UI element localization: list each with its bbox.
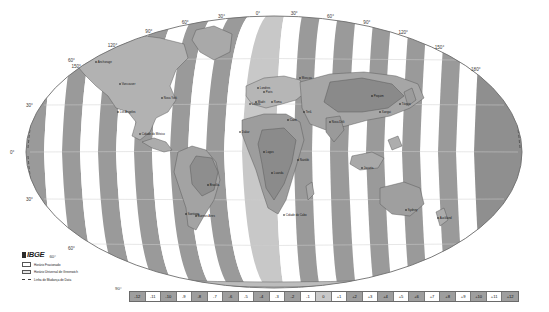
city-dot — [437, 217, 439, 219]
city-label: Los Angeles — [120, 110, 136, 114]
city-dot — [379, 111, 381, 113]
timezone-cell-minus5[interactable]: -5 — [239, 292, 255, 301]
city-dot — [161, 97, 163, 99]
logo-bars-icon — [22, 252, 26, 257]
timezone-cell-plus1[interactable]: +1 — [332, 292, 348, 301]
city-dot — [399, 103, 401, 105]
city-label: Sydney — [408, 208, 418, 212]
ibge-logo: IBGE — [22, 251, 44, 259]
timezone-scale-bar: -12-11-10-9-8-7-6-5-4-3-2-10+1+2+3+4+5+6… — [129, 291, 519, 302]
city-dot — [361, 167, 363, 169]
city-dot — [255, 101, 257, 103]
legend-latitude-marker: 60° — [49, 254, 56, 260]
city-label: Moscou — [302, 76, 313, 80]
city-label: Cidade do México — [142, 132, 166, 136]
legend-label-fractional: Horário Fracionado — [34, 263, 60, 267]
longitude-label: 90° — [145, 29, 152, 34]
longitude-label: 90° — [363, 20, 370, 25]
city-label: Tóquio — [402, 102, 411, 106]
longitude-label: 150° — [435, 45, 445, 50]
timezone-cell-plus10[interactable]: +10 — [471, 292, 487, 301]
legend-item-fractional: Horário Fracionado — [22, 262, 140, 268]
timezone-cell-plus12[interactable]: +12 — [502, 292, 518, 301]
legend-dashed-line-icon — [22, 277, 31, 282]
city-dot — [249, 103, 251, 105]
city-label: Jacarta — [364, 166, 374, 170]
world-timezone-map: AnchorageVancouverLos AngelesCidade do M… — [0, 0, 549, 312]
timezone-cell-plus9[interactable]: +9 — [456, 292, 472, 301]
longitude-label: 180° — [471, 67, 481, 72]
timezone-cell-minus9[interactable]: -9 — [177, 292, 193, 301]
city-label: Luanda — [274, 171, 284, 175]
timezone-cell-minus7[interactable]: -7 — [208, 292, 224, 301]
city-dot — [287, 119, 289, 121]
timezone-cell-minus3[interactable]: -3 — [270, 292, 286, 301]
timezone-cell-plus4[interactable]: +4 — [378, 292, 394, 301]
timezone-cell-plus11[interactable]: +11 — [487, 292, 503, 301]
city-dot — [207, 184, 209, 186]
city-dot — [303, 111, 305, 113]
city-label: Brasília — [210, 183, 220, 187]
city-dot — [271, 172, 273, 174]
latitude-label: 60° — [68, 58, 75, 63]
timezone-cell-minus2[interactable]: -2 — [285, 292, 301, 301]
timezone-cell-minus12[interactable]: -12 — [130, 292, 146, 301]
longitude-label: 30° — [218, 14, 225, 19]
city-dot — [185, 213, 187, 215]
city-dot — [95, 61, 97, 63]
city-dot — [297, 159, 299, 161]
city-dot — [299, 77, 301, 79]
city-label: Anchorage — [98, 60, 112, 64]
city-label: Nova Déli — [332, 120, 345, 124]
longitude-label: 0° — [256, 11, 261, 16]
city-label: Nairóbi — [300, 158, 310, 162]
timezone-cell-plus2[interactable]: +2 — [347, 292, 363, 301]
city-dot — [263, 151, 265, 153]
longitude-label: 30° — [291, 11, 298, 16]
city-label: Vancouver — [122, 82, 136, 86]
city-dot — [117, 111, 119, 113]
legend-label-greenwich: Horário Universal de Greenwich — [34, 270, 78, 274]
city-dot — [283, 214, 285, 216]
city-label: Cidade do Cabo — [286, 213, 307, 217]
city-label: Lagos — [266, 150, 274, 154]
city-label: Buenos Aires — [198, 214, 216, 218]
city-label: Dakar — [242, 130, 250, 134]
city-label: Xangai — [382, 110, 391, 114]
longitude-label: 60° — [327, 14, 334, 19]
longitude-label: 150° — [71, 64, 81, 69]
legend-label-dateline: Linha de Mudança de Data — [34, 278, 71, 282]
timezone-cell-plus6[interactable]: +6 — [409, 292, 425, 301]
latitude-label: 30° — [26, 103, 33, 108]
city-dot — [239, 131, 241, 133]
timezone-cell-minus10[interactable]: -10 — [161, 292, 177, 301]
timezone-cell-plus8[interactable]: +8 — [440, 292, 456, 301]
latitude-label: 30° — [26, 197, 33, 202]
city-dot — [263, 91, 265, 93]
timezone-cell-minus6[interactable]: -6 — [223, 292, 239, 301]
timezone-cell-plus3[interactable]: +3 — [363, 292, 379, 301]
timezone-cell-minus4[interactable]: -4 — [254, 292, 270, 301]
longitude-label: 120° — [398, 30, 408, 35]
timezone-cell-plus5[interactable]: +5 — [394, 292, 410, 301]
timezone-cell-0[interactable]: 0 — [316, 292, 332, 301]
city-label: Auckland — [440, 216, 452, 220]
timezone-cell-minus1[interactable]: -1 — [301, 292, 317, 301]
city-label: Madri — [258, 100, 266, 104]
map-legend: IBGE 60° Horário Fracionado Horário Univ… — [22, 251, 140, 284]
timezone-cell-minus8[interactable]: -8 — [192, 292, 208, 301]
timezone-cell-plus7[interactable]: +7 — [425, 292, 441, 301]
legend-item-dateline: Linha de Mudança de Data — [22, 277, 140, 283]
legend-header: IBGE 60° — [22, 251, 140, 259]
city-label: Nova York — [164, 96, 178, 100]
longitude-label: 60° — [182, 20, 189, 25]
timezone-cell-minus11[interactable]: -11 — [146, 292, 162, 301]
longitude-label: 120° — [108, 43, 118, 48]
city-label: Cairo — [290, 118, 297, 122]
city-dot — [371, 95, 373, 97]
legend-swatch-fractional-icon — [22, 262, 31, 267]
ibge-wordmark: IBGE — [27, 251, 44, 259]
bottom-latitude-label: 90° — [115, 286, 122, 291]
city-dot — [257, 87, 259, 89]
city-label: Terã — [306, 110, 312, 114]
